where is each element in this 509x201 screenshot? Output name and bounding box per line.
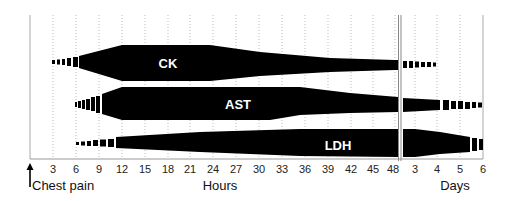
svg-text:42: 42 — [345, 163, 357, 175]
svg-text:48: 48 — [387, 163, 399, 175]
hours-axis-label: Hours — [203, 178, 238, 193]
hour-tick-labels: 3 6 9 12 15 18 21 24 27 30 33 36 39 42 4… — [50, 163, 399, 175]
svg-text:45: 45 — [367, 163, 379, 175]
ldh-label: LDH — [325, 138, 352, 153]
svg-text:6: 6 — [73, 163, 79, 175]
svg-text:3: 3 — [50, 163, 56, 175]
svg-text:36: 36 — [299, 163, 311, 175]
svg-text:30: 30 — [253, 163, 265, 175]
svg-text:24: 24 — [207, 163, 219, 175]
svg-text:5: 5 — [457, 163, 463, 175]
ast-label: AST — [225, 97, 251, 112]
svg-text:12: 12 — [116, 163, 128, 175]
svg-text:21: 21 — [184, 163, 196, 175]
svg-text:3: 3 — [412, 163, 418, 175]
svg-text:9: 9 — [96, 163, 102, 175]
svg-text:15: 15 — [139, 163, 151, 175]
day-tick-labels: 3 4 5 6 — [412, 163, 486, 175]
svg-text:33: 33 — [276, 163, 288, 175]
origin-label: Chest pain — [32, 178, 94, 193]
ck-band: CK — [52, 45, 436, 81]
days-axis-label: Days — [440, 178, 470, 193]
ast-band: AST — [75, 87, 482, 120]
enzyme-timeline-chart: CK AST LDH 3 6 9 12 15 — [0, 0, 509, 201]
svg-text:27: 27 — [230, 163, 242, 175]
ck-label: CK — [159, 56, 178, 71]
svg-text:6: 6 — [480, 163, 486, 175]
svg-text:18: 18 — [162, 163, 174, 175]
svg-text:39: 39 — [322, 163, 334, 175]
svg-text:4: 4 — [434, 163, 440, 175]
ldh-band: LDH — [76, 129, 483, 157]
